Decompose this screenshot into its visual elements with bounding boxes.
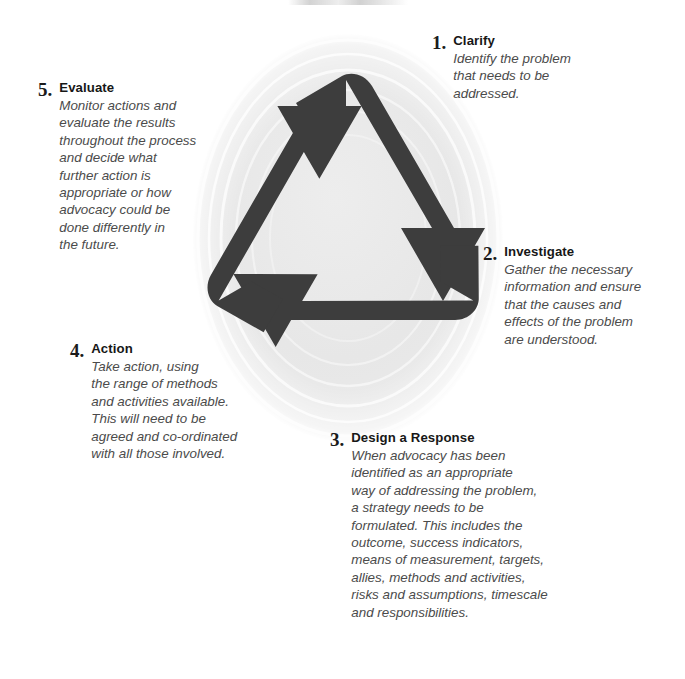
advocacy-cycle-diagram: 1. Clarify Identify the problem that nee… (0, 0, 685, 679)
step-number: 2. (483, 244, 497, 262)
step-investigate: 2. Investigate Gather the necessary info… (483, 244, 683, 348)
step-content: Investigate Gather the necessary informa… (504, 244, 683, 348)
step-description: Monitor actions and evaluate the results… (59, 97, 238, 254)
step-title: Evaluate (59, 80, 238, 96)
step-clarify: 1. Clarify Identify the problem that nee… (432, 33, 672, 102)
step-number: 1. (432, 33, 446, 51)
step-title: Investigate (504, 244, 683, 260)
step-action: 4. Action Take action, using the range o… (70, 341, 300, 462)
step-number: 3. (330, 430, 344, 448)
step-content: Action Take action, using the range of m… (91, 341, 300, 462)
step-evaluate: 5. Evaluate Monitor actions and evaluate… (38, 80, 238, 254)
step-description: Identify the problem that needs to be ad… (453, 50, 672, 102)
step-description: When advocacy has been identified as an … (351, 447, 590, 621)
step-title: Clarify (453, 33, 672, 49)
step-content: Clarify Identify the problem that needs … (453, 33, 672, 102)
step-content: Evaluate Monitor actions and evaluate th… (59, 80, 238, 254)
step-description: Gather the necessary information and ens… (504, 261, 683, 348)
step-number: 4. (70, 341, 84, 359)
step-title: Design a Response (351, 430, 590, 446)
step-design-a-response: 3. Design a Response When advocacy has b… (330, 430, 590, 621)
step-title: Action (91, 341, 300, 357)
step-content: Design a Response When advocacy has been… (351, 430, 590, 621)
step-number: 5. (38, 80, 52, 98)
step-description: Take action, using the range of methods … (91, 358, 300, 462)
scan-artifact (288, 0, 408, 5)
